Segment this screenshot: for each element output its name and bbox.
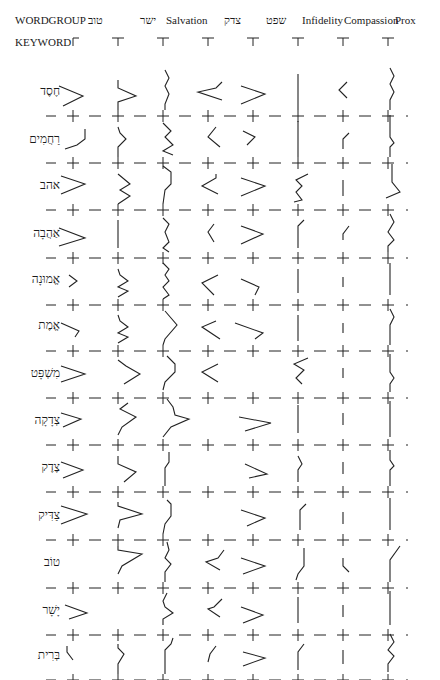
profile-glyph xyxy=(294,174,308,202)
profile-glyph xyxy=(388,634,394,672)
profile-glyph xyxy=(390,546,400,582)
profile-glyph xyxy=(208,224,214,242)
profile-glyph xyxy=(163,356,175,390)
profile-glyph xyxy=(241,178,265,196)
profile-glyph xyxy=(165,638,173,674)
profile-glyph xyxy=(298,220,304,248)
profile-glyph xyxy=(243,131,255,145)
profile-glyph xyxy=(163,311,177,345)
profile-glyph xyxy=(202,364,218,382)
profile-glyph xyxy=(165,70,169,110)
profile-glyph xyxy=(118,80,136,110)
profile-glyph xyxy=(118,174,130,204)
profile-glyph xyxy=(61,323,79,337)
profile-glyph xyxy=(202,321,220,339)
profile-glyph xyxy=(118,403,136,435)
profile-glyph xyxy=(298,456,302,482)
profile-glyph xyxy=(165,452,169,486)
profile-glyph xyxy=(163,218,169,252)
profile-glyph xyxy=(243,652,265,666)
profile-glyph xyxy=(67,646,73,660)
profile-glyph xyxy=(163,263,169,299)
profile-grid xyxy=(0,0,440,680)
profile-glyph xyxy=(390,115,394,157)
profile-glyph xyxy=(163,500,171,534)
profile-glyph xyxy=(241,510,265,526)
profile-glyph xyxy=(241,86,265,104)
profile-glyph xyxy=(61,462,83,478)
profile-glyph xyxy=(208,599,222,617)
profile-glyph xyxy=(163,166,171,204)
profile-glyph xyxy=(198,82,222,100)
profile-glyph xyxy=(59,86,83,106)
profile-glyph xyxy=(386,164,400,198)
profile-glyph xyxy=(65,129,85,149)
profile-glyph xyxy=(390,68,394,110)
profile-glyph xyxy=(343,133,349,149)
profile-glyph xyxy=(235,323,263,339)
profile-glyph xyxy=(163,123,173,155)
profile-glyph xyxy=(343,558,349,572)
profile-glyph xyxy=(118,456,136,482)
profile-glyph xyxy=(245,464,267,478)
profile-glyph xyxy=(296,548,304,580)
profile-glyph xyxy=(65,605,87,619)
profile-glyph xyxy=(388,214,394,252)
profile-glyph xyxy=(208,127,220,147)
profile-glyph xyxy=(241,279,259,295)
profile-glyph xyxy=(206,550,224,570)
profile-glyph xyxy=(239,417,271,431)
profile-glyph xyxy=(202,275,218,295)
profile-glyph xyxy=(241,226,263,244)
profile-glyph xyxy=(118,502,142,528)
profile-glyph xyxy=(300,504,306,530)
profile-glyph xyxy=(163,399,189,437)
profile-glyph xyxy=(390,354,394,392)
profile-glyph xyxy=(59,228,85,246)
profile-glyph xyxy=(390,450,394,486)
profile-glyph xyxy=(118,127,126,157)
profile-glyph xyxy=(118,269,128,297)
profile-glyph xyxy=(61,366,85,382)
profile-glyph xyxy=(241,607,263,623)
profile-glyph xyxy=(208,646,216,662)
profile-glyph xyxy=(118,360,140,384)
profile-glyph xyxy=(390,309,394,345)
profile-glyph xyxy=(339,82,347,98)
profile-glyph xyxy=(163,593,173,625)
profile-glyph xyxy=(202,174,218,194)
profile-glyph xyxy=(294,358,308,384)
profile-glyph xyxy=(118,315,128,343)
profile-glyph xyxy=(69,275,77,287)
profile-glyph xyxy=(165,542,171,582)
profile-glyph xyxy=(61,176,85,194)
profile-glyph xyxy=(61,413,81,427)
profile-glyph xyxy=(343,226,349,240)
profile-glyph xyxy=(118,546,142,574)
profile-glyph xyxy=(61,506,87,524)
profile-glyph xyxy=(241,558,265,574)
profile-glyph xyxy=(298,644,304,670)
profile-glyph xyxy=(118,644,124,674)
